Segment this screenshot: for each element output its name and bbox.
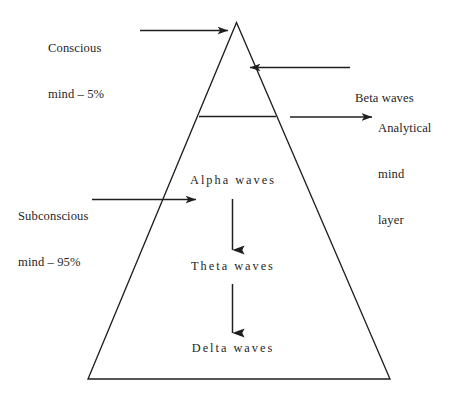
callout-subconscious-line2: mind – 95% bbox=[18, 255, 128, 270]
callout-subconscious-mind: Subconscious mind – 95% bbox=[18, 178, 128, 301]
pyramid-label-delta-waves: Delta waves bbox=[166, 341, 300, 356]
diagram-canvas: Conscious mind – 5% Beta waves Analytica… bbox=[0, 0, 463, 405]
callout-analytical-line3: layer bbox=[378, 213, 458, 228]
callout-subconscious-line1: Subconscious bbox=[18, 209, 128, 224]
callout-conscious-line1: Conscious bbox=[48, 41, 140, 56]
callout-analytical-mind-layer: Analytical mind layer bbox=[378, 90, 458, 259]
callout-conscious-line2: mind – 5% bbox=[48, 87, 140, 102]
callout-conscious-mind: Conscious mind – 5% bbox=[48, 10, 140, 133]
callout-analytical-line2: mind bbox=[378, 167, 458, 182]
pyramid-label-theta-waves: Theta waves bbox=[166, 259, 300, 274]
callout-analytical-line1: Analytical bbox=[378, 121, 458, 136]
pyramid-label-alpha-waves: Alpha waves bbox=[166, 173, 300, 188]
